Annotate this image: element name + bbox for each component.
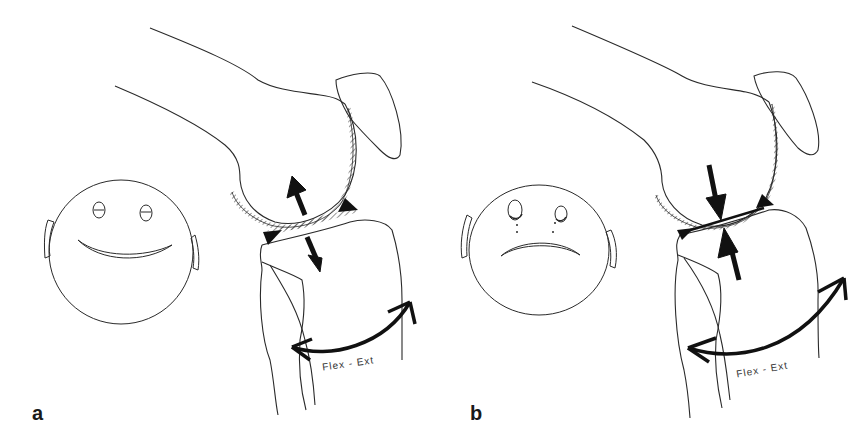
happy-face-icon [44, 180, 198, 324]
cartilage-hatching [232, 108, 353, 227]
meniscus-posterior [677, 228, 694, 240]
femur-outline-lower [532, 82, 662, 182]
tibia-outline-left [260, 245, 278, 415]
tibial-cartilage [268, 210, 356, 233]
panel-label-b: b [470, 402, 482, 425]
tears-icon [516, 222, 556, 233]
panel-a: Flex - Ext a [0, 0, 434, 440]
patella [336, 73, 401, 159]
sad-face-icon [461, 185, 616, 315]
flex-ext-arrow [292, 302, 415, 360]
knee-joint-distraction-illustration [0, 0, 434, 440]
fibula-inner-line [684, 258, 730, 400]
meniscus-anterior [756, 194, 774, 208]
tibia-outline-right [262, 220, 402, 360]
panel-label-a: a [32, 402, 43, 425]
flex-ext-arrow [688, 278, 846, 362]
femur-outline-upper [150, 28, 345, 104]
fibula-inner-line [270, 265, 315, 405]
patella [754, 72, 819, 155]
femur-outline-upper [572, 26, 769, 102]
panel-b: Flex - Ext b [434, 0, 868, 440]
femur-outline-lower [115, 86, 240, 180]
fibula-outline [678, 255, 722, 408]
fibula-outline [262, 262, 306, 410]
knee-joint-compression-illustration [434, 0, 868, 440]
